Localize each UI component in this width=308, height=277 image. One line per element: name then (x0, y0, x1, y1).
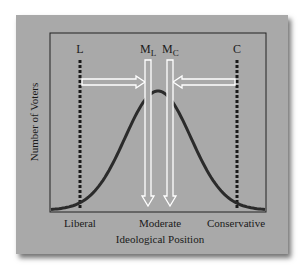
x-axis-label: Ideological Position (116, 233, 205, 245)
arrow-left-to-right (82, 76, 145, 88)
label-l: L (76, 42, 83, 56)
median-voter-diagram: L C ML MC Liberal Moderate Conservative … (0, 0, 308, 277)
y-axis-label: Number of Voters (28, 83, 40, 161)
label-ml-main: M (140, 42, 151, 56)
label-c: C (233, 42, 241, 56)
label-mc-sub: C (173, 48, 179, 58)
tick-moderate: Moderate (139, 217, 181, 229)
tick-conservative: Conservative (207, 217, 265, 229)
tick-liberal: Liberal (64, 217, 96, 229)
label-ml: ML (140, 42, 156, 58)
label-mc-main: M (162, 42, 173, 56)
plot-frame (50, 33, 266, 212)
label-ml-sub: L (151, 48, 157, 58)
voter-distribution-curve (51, 91, 265, 209)
label-mc: MC (162, 42, 179, 58)
arrow-right-to-left (173, 76, 235, 88)
